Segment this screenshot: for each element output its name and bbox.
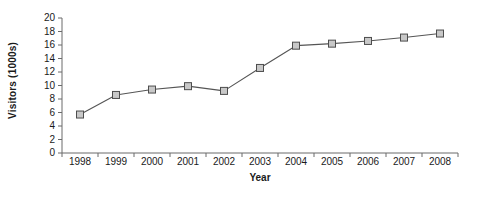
- x-axis-tick-label: 2007: [393, 156, 415, 168]
- line-chart: Visitors (1000s) 02468101214161820 19981…: [0, 0, 479, 197]
- data-point-marker: [113, 91, 120, 98]
- y-axis-tick-label: 20: [44, 13, 55, 23]
- y-axis-tick-label: 0: [49, 148, 55, 158]
- x-axis-tick-label: 2005: [321, 156, 343, 168]
- series-line-visitors: [80, 34, 440, 115]
- data-point-marker: [185, 83, 192, 90]
- y-axis-tick-label: 14: [44, 54, 55, 64]
- plot-area: [62, 18, 458, 153]
- data-point-marker: [293, 42, 300, 49]
- x-axis-tick-label: 2003: [249, 156, 271, 168]
- data-point-marker: [401, 34, 408, 41]
- x-axis-tick-label: 2001: [177, 156, 199, 168]
- y-axis-tick-label: 18: [44, 27, 55, 37]
- y-axis-tick-label: 10: [44, 81, 55, 91]
- x-axis-tick-label: 2000: [141, 156, 163, 168]
- data-point-marker: [77, 111, 84, 118]
- data-point-marker: [437, 30, 444, 37]
- y-axis-title: Visitors (1000s): [0, 0, 24, 160]
- data-point-marker: [329, 40, 336, 47]
- data-point-marker: [149, 86, 156, 93]
- y-axis-ticks: [58, 18, 62, 153]
- data-point-marker: [257, 64, 264, 71]
- x-axis-tick-label: 2006: [357, 156, 379, 168]
- y-axis-tick-labels: 02468101214161820: [24, 0, 58, 160]
- x-axis-tick-label: 2008: [429, 156, 451, 168]
- y-axis-tick-label: 4: [49, 121, 55, 131]
- x-axis-tick-label: 2004: [285, 156, 307, 168]
- y-axis-tick-label: 16: [44, 40, 55, 50]
- x-axis-tick-labels: 1998199920002001200220032004200520062007…: [62, 156, 458, 172]
- x-axis-tick-label: 1999: [105, 156, 127, 168]
- y-axis-tick-label: 2: [49, 135, 55, 145]
- y-axis-title-text: Visitors (1000s): [7, 42, 18, 119]
- x-axis-tick-label: 1998: [69, 156, 91, 168]
- data-point-marker: [221, 87, 228, 94]
- x-axis-tick-label: 2002: [213, 156, 235, 168]
- y-axis-tick-label: 6: [49, 108, 55, 118]
- series-markers-visitors: [77, 30, 444, 118]
- x-axis-title: Year: [62, 172, 458, 183]
- y-axis-tick-label: 8: [49, 94, 55, 104]
- data-point-marker: [365, 37, 372, 44]
- y-axis-tick-label: 12: [44, 67, 55, 77]
- plot-svg: [62, 18, 462, 158]
